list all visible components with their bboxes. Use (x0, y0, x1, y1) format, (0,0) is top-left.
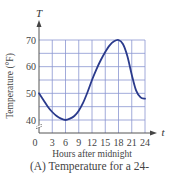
temperature-chart: 03691215182124 40506070 T t Hours after … (0, 0, 179, 178)
x-tick-labels: 03691215182124 (33, 137, 151, 148)
y-tick-label: 60 (26, 61, 36, 72)
x-axis-variable: t (161, 126, 165, 138)
x-tick-label: 12 (87, 137, 97, 148)
x-axis-label: Hours after midnight (52, 149, 132, 159)
y-axis-label: Temperature (°F) (5, 53, 16, 119)
y-tick-label: 50 (26, 88, 36, 99)
y-tick-label: 40 (26, 115, 36, 126)
figure-caption: (A) Temperature for a 24- (0, 160, 179, 172)
x-tick-label: 18 (114, 137, 124, 148)
y-tick-labels: 40506070 (26, 35, 36, 126)
y-axis-arrow-icon (37, 20, 42, 27)
y-axis-variable: T (36, 7, 43, 19)
x-tick-label: 3 (50, 137, 55, 148)
x-tick-label: 0 (33, 137, 38, 148)
x-tick-label: 6 (63, 137, 68, 148)
y-tick-label: 70 (26, 35, 36, 46)
x-tick-label: 9 (76, 137, 81, 148)
grid-lines (39, 40, 145, 133)
x-axis-arrow-icon (150, 131, 157, 136)
x-tick-label: 24 (140, 137, 150, 148)
x-tick-label: 21 (127, 137, 137, 148)
x-tick-label: 15 (100, 137, 110, 148)
axes (36, 20, 157, 136)
